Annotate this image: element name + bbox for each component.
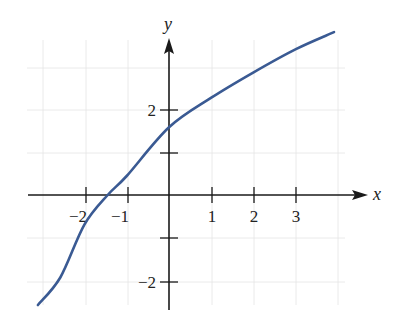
y-axis-label: y xyxy=(162,14,172,34)
x-axis-label: x xyxy=(372,184,381,204)
x-tick-label: −1 xyxy=(111,207,129,226)
x-tick-label: 3 xyxy=(292,207,301,226)
grid xyxy=(27,40,345,305)
y-tick-label: 2 xyxy=(148,101,157,120)
function-graph: −2 −1 1 2 3 2 −2 x y xyxy=(0,0,400,321)
function-curve xyxy=(38,32,334,305)
y-tick-label: −2 xyxy=(138,273,156,292)
x-tick-label: 2 xyxy=(250,207,259,226)
x-tick-label: 1 xyxy=(208,207,217,226)
